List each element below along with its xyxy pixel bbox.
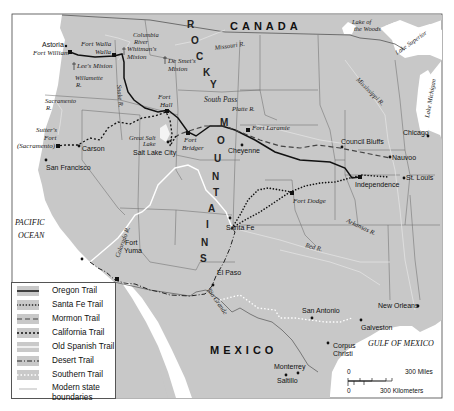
map-legend: Oregon Trail Santa Fe Trail Mormon Trail…: [11, 282, 116, 399]
label-lees-mission: Lee's Mision: [76, 62, 113, 70]
label-willamette-river-2: R.: [75, 81, 82, 88]
label-san-francisco: San Francisco: [46, 164, 91, 171]
label-fort-yuma-2: Yuma: [124, 247, 142, 254]
label-fort-walla-walla-2: Walla: [95, 48, 112, 56]
label-mexico: MEXICO: [210, 344, 277, 356]
label-new-orleans: New Orleans: [378, 302, 419, 309]
astoria-marker: [65, 45, 67, 47]
corpus-christi-marker: [327, 342, 330, 345]
fort-laramie-marker: [246, 128, 250, 132]
label-columbia-river-1: Columbia: [133, 31, 159, 38]
council-bluffs-marker: [341, 146, 344, 149]
svg-text:Y: Y: [210, 79, 217, 90]
label-el-paso: El Paso: [217, 269, 241, 276]
state-boundary-swatch-icon: [17, 384, 39, 394]
label-sacramento-river-2: R.: [45, 104, 52, 111]
label-fort-walla-walla-1: Fort Walla: [80, 40, 112, 48]
saltillo-marker: [297, 372, 300, 375]
nauvoo-marker: [389, 156, 392, 159]
svg-text:U: U: [214, 153, 221, 164]
desert-trail-swatch-icon: [17, 356, 39, 366]
st-louis-marker: [403, 177, 406, 180]
fort-walla-walla-marker: [112, 53, 116, 57]
monterrey-marker: [285, 374, 288, 377]
svg-text:0: 0: [347, 368, 351, 375]
legend-item-mormon-trail: Mormon Trail: [12, 312, 115, 326]
legend-item-old-spanish-trail: Old Spanish Trail: [12, 340, 115, 354]
oregon-trail-swatch-icon: [17, 286, 39, 296]
legend-item-desert-trail: Desert Trail: [12, 354, 115, 368]
label-platte-river: Platte R.: [231, 105, 255, 112]
label-ocean: OCEAN: [18, 231, 45, 240]
san-diego-marker: [81, 258, 84, 261]
san-francisco-marker: [45, 159, 48, 162]
legend-item-california-trail: California Trail: [12, 326, 115, 340]
svg-text:K: K: [203, 67, 211, 78]
label-saltillo: Saltillo: [277, 377, 298, 384]
label-astoria: Astoria: [42, 41, 64, 48]
label-whitmans-mission-1: Whitman's: [127, 45, 157, 53]
label-carson: Carson: [82, 145, 105, 152]
svg-text:O: O: [217, 135, 225, 146]
label-monterrey: Monterrey: [274, 363, 306, 371]
legend-item-oregon-trail: Oregon Trail: [12, 284, 115, 298]
legend-item-southern-trail: Southern Trail: [12, 368, 115, 382]
label-galveston: Galveston: [361, 324, 393, 331]
label-columbia-river-2: River: [133, 38, 149, 45]
label-fort-hall-1: Fort: [157, 93, 172, 101]
label-fort-bridger-2: Bridger: [182, 144, 204, 152]
svg-text:T: T: [213, 187, 219, 198]
label-fort-hall-2: Hall: [159, 101, 173, 109]
label-san-antonio: San Antonio: [302, 307, 340, 314]
svg-text:A: A: [208, 203, 215, 214]
svg-text:O: O: [191, 35, 199, 46]
fort-dodge-marker: [290, 191, 294, 195]
label-de-smets-mission-1: De Smet's: [167, 57, 196, 65]
label-de-smets-mission-2: Mision: [167, 65, 188, 73]
label-fort-bridger-1: Fort: [183, 136, 198, 144]
legend-item-santa-fe-trail: Santa Fe Trail: [12, 298, 115, 312]
label-st-louis: St. Louis: [406, 174, 434, 181]
legend-item-state-boundaries: Modern stateboundaries: [12, 382, 115, 402]
label-pacific: PACIFIC: [14, 218, 45, 227]
label-corpus-christi-1: Corpus: [333, 342, 356, 350]
svg-text:N: N: [212, 171, 219, 182]
sutters-fort-marker: [56, 144, 60, 148]
label-lake-of-the-woods-2: the Woods: [354, 25, 381, 32]
label-whitmans-mission-2: Mision: [126, 53, 147, 61]
svg-text:C: C: [196, 51, 203, 62]
label-lake-of-the-woods-1: Lake of: [351, 18, 373, 25]
label-fort-laramie: Fort Laramie: [251, 124, 290, 132]
label-gulf-of-mexico: GULF OF MEXICO: [368, 339, 434, 348]
label-fort-dodge: Fort Dodge: [292, 197, 326, 205]
independence-marker: [358, 175, 362, 179]
svg-text:S: S: [200, 253, 207, 264]
svg-text:M: M: [220, 117, 228, 128]
cheyenne-marker: [241, 144, 244, 147]
svg-text:I: I: [206, 219, 209, 230]
svg-text:300 Kilometers: 300 Kilometers: [380, 387, 424, 394]
label-sutters-fort-2: Fort: [43, 134, 58, 142]
label-willamette-river-1: Willamette: [75, 74, 103, 81]
label-canada: CANADA: [230, 20, 302, 32]
label-fort-yuma-1: Fort: [125, 239, 138, 246]
svg-text:0: 0: [347, 387, 351, 394]
label-independence: Independence: [355, 181, 399, 189]
southern-trail-swatch-icon: [17, 370, 39, 380]
fort-hall-marker: [165, 109, 169, 113]
carson-marker: [78, 145, 81, 148]
label-council-bluffs: Council Bluffs: [341, 138, 384, 145]
fort-bridger-marker: [186, 131, 190, 135]
san-antonio-marker: [311, 317, 314, 320]
label-sacramento-river-1: Sacramento: [45, 97, 77, 104]
svg-text:300 Miles: 300 Miles: [405, 368, 434, 375]
label-chicago: Chicago: [403, 129, 429, 137]
mormon-trail-swatch-icon: [17, 314, 39, 324]
label-fort-william: Fort William: [32, 49, 69, 57]
svg-text:N: N: [201, 237, 208, 248]
galveston-marker: [360, 319, 363, 322]
salt-lake-city-marker: [167, 141, 170, 144]
label-sutters-fort-3: (Sacramento): [17, 142, 56, 150]
label-corpus-christi-2: Christi: [333, 350, 353, 357]
old-spanish-trail-swatch-icon: [17, 342, 39, 352]
